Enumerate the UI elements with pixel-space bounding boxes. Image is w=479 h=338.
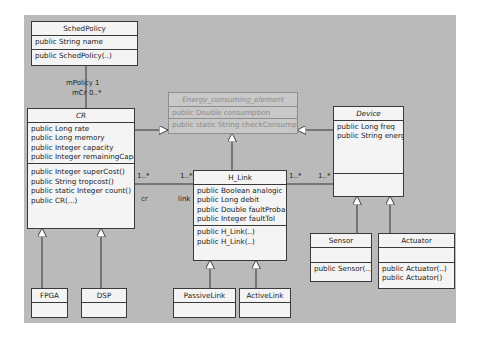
attribute: public Long debit xyxy=(197,195,283,205)
class-name: Actuator xyxy=(379,234,454,248)
operations-section: public H_Link(..) public H_Link(..) xyxy=(194,226,286,247)
class-fpga[interactable]: FPGA xyxy=(31,288,68,318)
class-activelink[interactable]: ActiveLink xyxy=(239,288,291,318)
operation: public static String checkConsumption() xyxy=(172,120,294,130)
mult-link-device-right: 1..* xyxy=(318,172,330,180)
body-section xyxy=(32,303,67,305)
attributes-section xyxy=(311,248,371,263)
operation: public static Integer count() xyxy=(31,186,131,196)
role-mcr: mCr xyxy=(72,89,87,97)
class-h-link[interactable]: H_Link public Boolean analogic public Lo… xyxy=(193,170,287,261)
class-passivelink[interactable]: PassiveLink xyxy=(173,288,236,318)
mult-mcr: 0..* xyxy=(89,89,101,97)
mult-cr-link-left: 1..* xyxy=(137,172,149,180)
attribute: public Integer remainingCapacity xyxy=(31,152,131,162)
class-name: Sensor xyxy=(311,234,371,248)
mult-cr-link-right: 1..* xyxy=(180,172,192,180)
attribute: public Boolean analogic xyxy=(197,186,283,196)
operations-section: public static String checkConsumption() xyxy=(169,119,297,131)
attribute: public String name xyxy=(35,37,134,47)
class-name: PassiveLink xyxy=(174,289,235,303)
attributes-section: public Boolean analogic public Long debi… xyxy=(194,185,286,226)
operation: public Actuator() xyxy=(382,273,451,283)
attribute: public Double consumption xyxy=(172,108,294,118)
body-section xyxy=(82,303,126,305)
class-name: ActiveLink xyxy=(240,289,290,303)
attribute: public Long memory xyxy=(31,133,131,143)
operation: public Sensor(..) xyxy=(314,264,368,274)
class-name: CR xyxy=(28,109,134,123)
operations-section: public Integer superCost() public String… xyxy=(28,164,134,206)
class-name: DSP xyxy=(82,289,126,303)
attributes-section: public Long freq public String energy xyxy=(334,121,403,174)
operation: public Integer superCost() xyxy=(31,167,131,177)
class-name: H_Link xyxy=(194,171,286,185)
operation: public H_Link(..) xyxy=(197,237,283,247)
mult-link-device-left: 1..* xyxy=(289,172,301,180)
class-cr[interactable]: CR public Long rate public Long memory p… xyxy=(27,108,135,229)
mult-mpolicy: 1 xyxy=(95,79,99,87)
class-name: FPGA xyxy=(32,289,67,303)
attribute: public Integer faultTol xyxy=(197,214,283,224)
class-sensor[interactable]: Sensor public Sensor(..) xyxy=(310,233,372,282)
role-mpolicy: mPolicy xyxy=(66,79,93,87)
operation: public SchedPolicy(..) xyxy=(35,51,134,61)
attribute: public Long rate xyxy=(31,124,131,134)
class-name: Device xyxy=(334,107,403,121)
attribute: public Long freq xyxy=(337,122,400,132)
class-name: SchedPolicy xyxy=(32,22,137,36)
operation: public H_Link(..) xyxy=(197,227,283,237)
operations-section: public Actuator(..) public Actuator() xyxy=(379,263,454,284)
role-link: link xyxy=(178,195,190,203)
operation: public String tropcost() xyxy=(31,177,131,187)
class-actuator[interactable]: Actuator public Actuator(..) public Actu… xyxy=(378,233,455,289)
operations-section xyxy=(334,174,403,176)
attribute: public Double faultProba xyxy=(197,205,283,215)
class-name: Energy_consuming_element xyxy=(169,93,297,107)
attribute: public String energy xyxy=(337,131,400,141)
attribute: public Integer capacity xyxy=(31,143,131,153)
class-schedpolicy[interactable]: SchedPolicy public String name public Sc… xyxy=(31,21,138,66)
body-section xyxy=(174,303,235,305)
attributes-section: public Long rate public Long memory publ… xyxy=(28,123,134,164)
class-device[interactable]: Device public Long freq public String en… xyxy=(333,106,404,197)
attributes-section: public Double consumption xyxy=(169,107,297,120)
class-dsp[interactable]: DSP xyxy=(81,288,127,318)
operations-section: public SchedPolicy(..) xyxy=(32,50,137,62)
role-cr: cr xyxy=(141,195,148,203)
body-section xyxy=(240,303,290,305)
operation: public Actuator(..) xyxy=(382,264,451,274)
operations-section: public Sensor(..) xyxy=(311,263,371,275)
attributes-section: public String name xyxy=(32,36,137,50)
class-energy-consuming-element[interactable]: Energy_consuming_element public Double c… xyxy=(168,92,298,134)
attributes-section xyxy=(379,248,454,263)
operation: public CR(...) xyxy=(31,196,131,206)
